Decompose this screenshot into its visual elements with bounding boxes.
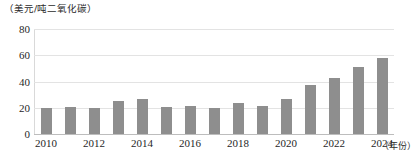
bar-series bbox=[34, 29, 394, 134]
x-tick-label: 2012 bbox=[77, 137, 111, 150]
gridline bbox=[34, 134, 394, 135]
y-tick-label: 40 bbox=[4, 77, 30, 88]
bar bbox=[41, 108, 52, 134]
bar bbox=[377, 58, 388, 134]
x-tick-label: 2010 bbox=[29, 137, 63, 150]
bar bbox=[161, 107, 172, 134]
bar bbox=[329, 78, 340, 134]
y-tick-label: 60 bbox=[4, 50, 30, 61]
x-tick-label: 2022 bbox=[317, 137, 351, 150]
bar bbox=[209, 108, 220, 134]
x-tick-label: 2020 bbox=[269, 137, 303, 150]
y-tick-label: 80 bbox=[4, 24, 30, 35]
bar bbox=[233, 103, 244, 134]
bar bbox=[281, 99, 292, 134]
y-tick-label: 20 bbox=[4, 103, 30, 114]
x-axis-tick-labels: 20102012201420162018202020222024 bbox=[34, 137, 394, 153]
bar bbox=[137, 99, 148, 134]
bar bbox=[305, 85, 316, 134]
y-tick-label: 0 bbox=[4, 129, 30, 140]
x-axis-title: （年份） bbox=[380, 139, 416, 152]
bar-chart: （美元/吨二氧化碳） 020406080 2010201220142016201… bbox=[0, 0, 416, 166]
bar bbox=[185, 106, 196, 134]
bar bbox=[353, 67, 364, 134]
x-tick-label: 2014 bbox=[125, 137, 159, 150]
x-tick-label: 2016 bbox=[173, 137, 207, 150]
bar bbox=[113, 101, 124, 134]
x-tick-label: 2018 bbox=[221, 137, 255, 150]
bar bbox=[257, 106, 268, 134]
bar bbox=[89, 108, 100, 134]
plot-area bbox=[34, 29, 394, 134]
bar bbox=[65, 107, 76, 134]
